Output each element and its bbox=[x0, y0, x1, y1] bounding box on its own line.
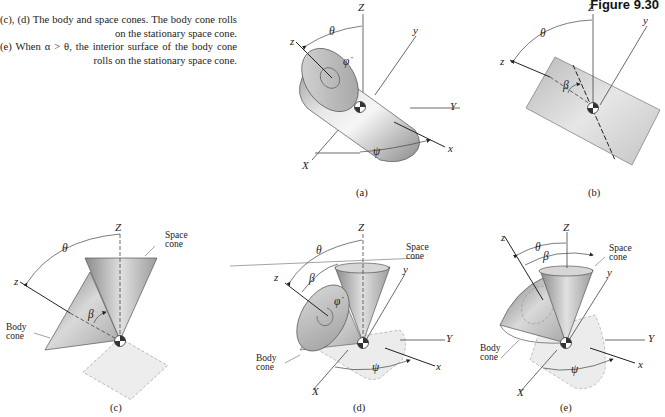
cylinder-side-diagram bbox=[500, 0, 665, 205]
label-theta: θ bbox=[329, 26, 335, 38]
body-cone-line-2: cone bbox=[256, 362, 274, 372]
label-z-axis: z bbox=[501, 232, 505, 243]
label-theta: θ bbox=[62, 243, 68, 255]
label-theta: θ bbox=[540, 28, 546, 40]
label-z-axis: z bbox=[14, 276, 18, 287]
label-Z-axis: Z bbox=[358, 2, 364, 13]
space-cone-line-2: cone bbox=[609, 252, 627, 262]
label-theta: θ bbox=[535, 242, 541, 254]
label-space-cone: Spacecone bbox=[609, 244, 632, 262]
label-y-axis: y bbox=[413, 25, 418, 36]
panel-e-sublabel: (e) bbox=[560, 403, 572, 414]
label-X-axis: X bbox=[517, 387, 524, 398]
label-beta: β bbox=[88, 309, 94, 321]
cylinder-diagram bbox=[240, 0, 460, 205]
panel-e: Z z θ β y Y x ψ X Spacecone Bodycone (e) bbox=[445, 220, 665, 417]
label-Z-axis: Z bbox=[563, 222, 569, 233]
label-z-axis: z bbox=[290, 36, 294, 47]
body-cone-rolling-inside-diagram bbox=[445, 220, 665, 417]
label-space-cone: Spacecone bbox=[406, 243, 429, 261]
panel-b-sublabel: (b) bbox=[588, 188, 600, 199]
label-psi: ψ bbox=[571, 364, 578, 376]
panel-d-sublabel: (d) bbox=[353, 403, 365, 414]
label-Z-axis: Z bbox=[588, 2, 594, 13]
label-theta: θ bbox=[316, 245, 322, 257]
caption-line-1: (c), (d) The body and space cones. The b… bbox=[0, 13, 237, 40]
label-X-axis: X bbox=[312, 386, 319, 397]
space-cone-line-2: cone bbox=[406, 251, 424, 261]
label-y-axis: y bbox=[403, 264, 408, 275]
panel-d: Z z θ β φ̇ y Y x ψ X Spacecone Bodycone … bbox=[230, 220, 450, 417]
panel-b: Z z θ y β (b) bbox=[500, 0, 665, 205]
label-beta: β bbox=[563, 80, 569, 92]
label-body-cone: Bodycone bbox=[6, 323, 27, 341]
label-Z-axis: Z bbox=[115, 222, 121, 233]
space-cone-line-2: cone bbox=[165, 239, 183, 249]
label-y-axis: y bbox=[643, 15, 648, 26]
label-phi-dot: φ̇ bbox=[343, 56, 349, 68]
figure-caption: (c), (d) The body and space cones. The b… bbox=[0, 13, 237, 67]
panel-c-sublabel: (c) bbox=[110, 403, 122, 414]
panel-a: Z z θ y φ̇ Y x ψ X (a) bbox=[240, 0, 460, 205]
label-z-axis: z bbox=[274, 272, 278, 283]
label-beta: β bbox=[309, 273, 315, 285]
label-y-axis: y bbox=[607, 267, 612, 278]
label-phi-dot: φ̇ bbox=[334, 296, 340, 308]
label-beta: β bbox=[543, 251, 549, 263]
panel-a-sublabel: (a) bbox=[356, 188, 368, 199]
body-cone-line-2: cone bbox=[480, 352, 498, 362]
label-psi: ψ bbox=[372, 362, 379, 374]
body-cone-line-2: cone bbox=[6, 331, 24, 341]
label-space-cone: Spacecone bbox=[165, 231, 188, 249]
caption-line-2: (e) When α > θ, the interior surface of … bbox=[0, 40, 237, 67]
label-x-axis: x bbox=[436, 361, 441, 372]
panel-c: Z z θ β Spacecone Bodycone (c) bbox=[0, 220, 230, 417]
label-x-axis: x bbox=[638, 359, 643, 370]
label-body-cone: Bodycone bbox=[480, 344, 501, 362]
label-Z-axis: Z bbox=[358, 222, 364, 233]
label-Y-axis: Y bbox=[450, 101, 456, 112]
label-Y-axis: Y bbox=[648, 333, 654, 344]
label-body-cone: Bodycone bbox=[256, 354, 277, 372]
label-x-axis: x bbox=[448, 143, 453, 154]
cones-side-diagram bbox=[0, 220, 230, 417]
label-psi: ψ bbox=[373, 146, 380, 158]
label-X-axis: X bbox=[302, 160, 309, 171]
label-z-axis: z bbox=[500, 56, 504, 67]
